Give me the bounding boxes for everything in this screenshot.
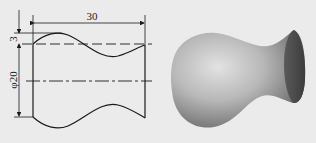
dimension-length-label: 30 [87, 10, 99, 22]
profile-outline [33, 33, 145, 128]
dimension-vertical: 3 φ20 [7, 10, 19, 116]
figure: 30 3 φ20 [0, 0, 316, 143]
dimension-diameter-label: φ20 [7, 71, 19, 89]
dimension-amplitude-label: 3 [7, 36, 19, 42]
profile-drawing: 30 3 φ20 [0, 0, 316, 143]
dimension-length: 30 [34, 10, 144, 23]
solid-render [171, 30, 305, 128]
reference-lines [22, 44, 152, 81]
extension-lines [14, 15, 145, 117]
